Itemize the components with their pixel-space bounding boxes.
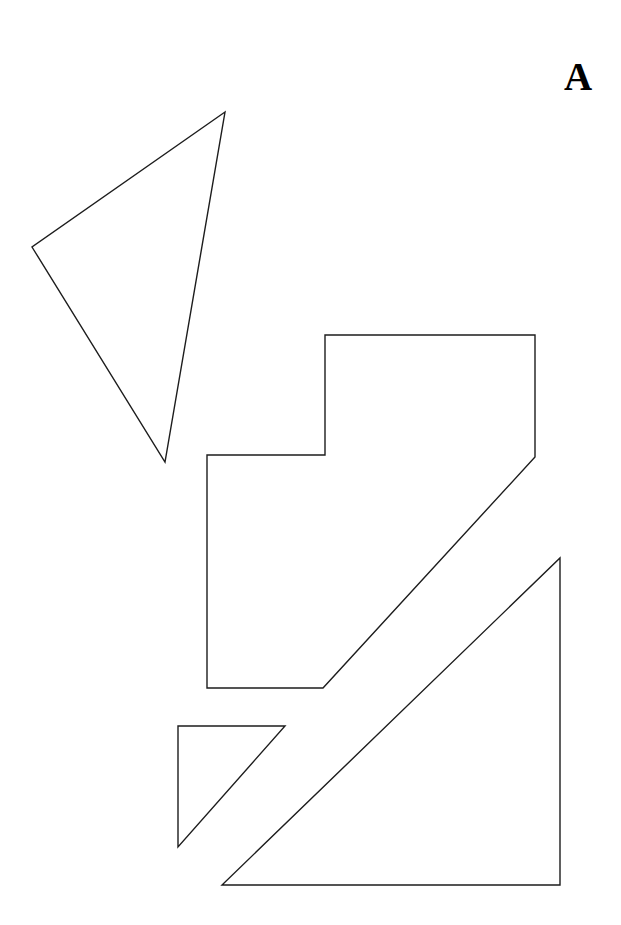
small-right-triangle-lower-left: [178, 726, 285, 847]
notched-polygon-center: [207, 335, 535, 688]
triangle-upper-left: [32, 112, 225, 462]
large-right-triangle-lower-right: [222, 558, 560, 885]
figure-panel: A: [0, 0, 621, 925]
shapes-canvas: [0, 0, 621, 925]
panel-label: A: [564, 57, 592, 96]
